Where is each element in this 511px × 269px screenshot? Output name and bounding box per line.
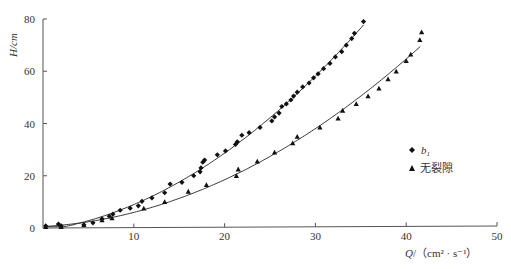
x-axis-label-unit: /（cm² · s⁻¹） bbox=[413, 247, 478, 259]
diamond-point bbox=[191, 173, 196, 178]
triangle-point bbox=[417, 37, 422, 42]
diamond-point bbox=[327, 61, 332, 66]
triangle-point bbox=[236, 167, 241, 172]
x-tick-label: 20 bbox=[219, 230, 231, 242]
x-tick-label: 50 bbox=[492, 230, 504, 242]
triangle-point bbox=[385, 76, 390, 81]
y-tick-label: 20 bbox=[24, 170, 36, 182]
diamond-point bbox=[344, 43, 349, 48]
axes: 020406080 1020304050 H/cm Q/（cm² · s⁻¹） bbox=[7, 13, 503, 259]
legend-label-b1: b1 bbox=[421, 144, 430, 158]
triangle-point bbox=[234, 173, 239, 178]
triangle-point bbox=[295, 134, 300, 139]
triangle-marker-icon bbox=[409, 165, 415, 171]
triangle-point bbox=[354, 101, 359, 106]
triangle-point bbox=[141, 206, 146, 211]
diamond-point bbox=[279, 104, 284, 109]
diamond-point bbox=[239, 133, 244, 138]
legend-label-no-crack: 无裂隙 bbox=[420, 161, 453, 174]
x-axis-label-var: Q bbox=[405, 247, 413, 259]
diamond-point bbox=[300, 84, 305, 89]
triangle-point bbox=[336, 116, 341, 121]
y-tick-label: 80 bbox=[24, 13, 36, 25]
triangle-point bbox=[272, 150, 277, 155]
triangle-point bbox=[419, 29, 424, 34]
triangle-point bbox=[162, 199, 167, 204]
x-tick-label: 10 bbox=[128, 230, 140, 242]
legend-item-b1: b1 bbox=[409, 144, 430, 158]
chart: 020406080 1020304050 H/cm Q/（cm² · s⁻¹） … bbox=[0, 0, 511, 269]
triangle-point bbox=[290, 140, 295, 145]
y-tick-label: 0 bbox=[30, 222, 36, 234]
diamond-point bbox=[339, 49, 344, 54]
y-tick-label: 40 bbox=[24, 118, 36, 130]
y-tick-label: 60 bbox=[24, 65, 36, 77]
triangle-point bbox=[376, 86, 381, 91]
diamond-point bbox=[321, 66, 326, 71]
x-axis bbox=[43, 226, 497, 228]
diamond-point bbox=[179, 180, 184, 185]
data-points bbox=[43, 19, 424, 229]
triangle-point bbox=[204, 182, 209, 187]
legend: b1 无裂隙 bbox=[409, 144, 453, 174]
fit-line-0 bbox=[46, 25, 364, 227]
diamond-point bbox=[257, 125, 262, 130]
diamond-point bbox=[352, 31, 357, 36]
diamond-point bbox=[149, 195, 154, 200]
x-tick-label: 30 bbox=[310, 230, 322, 242]
diamond-point bbox=[333, 54, 338, 59]
diamond-point bbox=[269, 118, 274, 123]
diamond-point bbox=[118, 208, 123, 213]
diamond-point bbox=[361, 19, 366, 24]
x-tick-label: 40 bbox=[401, 230, 413, 242]
triangle-point bbox=[408, 52, 413, 57]
diamond-marker-icon bbox=[409, 147, 415, 153]
diamond-point bbox=[136, 203, 141, 208]
y-ticks: 020406080 bbox=[24, 13, 47, 234]
fit-curves bbox=[46, 25, 421, 227]
diamond-point bbox=[247, 130, 252, 135]
triangle-point bbox=[255, 159, 260, 164]
diamond-point bbox=[128, 206, 133, 211]
diamond-point bbox=[306, 80, 311, 85]
diamond-point bbox=[139, 199, 144, 204]
x-axis-label: Q/（cm² · s⁻¹） bbox=[405, 247, 478, 259]
legend-item-no-crack: 无裂隙 bbox=[409, 161, 453, 174]
triangle-point bbox=[186, 189, 191, 194]
y-axis-label: H/cm bbox=[7, 33, 19, 58]
diamond-point bbox=[223, 148, 228, 153]
x-ticks: 1020304050 bbox=[128, 222, 503, 242]
fit-line-1 bbox=[46, 47, 421, 227]
triangle-point bbox=[365, 93, 370, 98]
diamond-point bbox=[295, 90, 300, 95]
diamond-point bbox=[291, 93, 296, 98]
diamond-point bbox=[197, 169, 202, 174]
